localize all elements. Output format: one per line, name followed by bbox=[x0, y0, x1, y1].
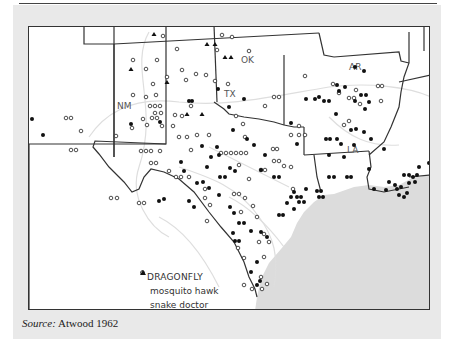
legend-item-snake-doctor: snake doctor bbox=[140, 298, 219, 310]
legend-label: snake doctor bbox=[150, 298, 208, 310]
state-label-tx: TX bbox=[223, 89, 236, 99]
dialect-map: NM TX OK AR LA bbox=[29, 27, 430, 310]
legend-item-mosquito-hawk: mosquito hawk bbox=[140, 284, 219, 298]
state-label-ok: OK bbox=[241, 55, 255, 65]
source-prefix: Source: bbox=[22, 317, 56, 329]
legend-title: DRAGONFLY bbox=[147, 270, 219, 284]
source-text: Atwood 1962 bbox=[58, 317, 118, 329]
state-label-nm: NM bbox=[117, 101, 132, 111]
map-frame: NM TX OK AR LA bbox=[28, 26, 430, 310]
source-caption: Source: Atwood 1962 bbox=[22, 317, 118, 329]
top-rule bbox=[19, 3, 437, 4]
map-legend: DRAGONFLY mosquito hawk snake doctor sna… bbox=[140, 270, 219, 310]
legend-label: mosquito hawk bbox=[150, 284, 219, 298]
